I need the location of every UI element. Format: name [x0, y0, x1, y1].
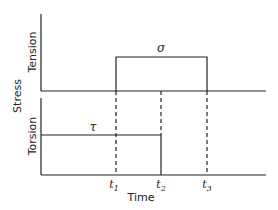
tension-label: Tension	[26, 31, 39, 73]
y-axis-label: Stress	[11, 79, 24, 113]
tension-panel: σ Tension	[26, 14, 266, 91]
tau-label: τ	[90, 120, 97, 134]
sigma-pulse	[116, 57, 207, 91]
t3-label: t3	[202, 178, 212, 193]
torsion-label: Torsion	[26, 117, 39, 157]
tau-signal	[41, 135, 161, 175]
t2-label: t2	[156, 178, 166, 193]
torsion-panel: τ Torsion	[26, 98, 266, 175]
stress-time-diagram: σ Tension τ Torsion t1 t2 t3 Time Stress	[0, 0, 278, 210]
t1-label: t1	[109, 178, 119, 193]
sigma-label: σ	[157, 41, 166, 55]
x-axis-label: Time	[127, 191, 155, 204]
